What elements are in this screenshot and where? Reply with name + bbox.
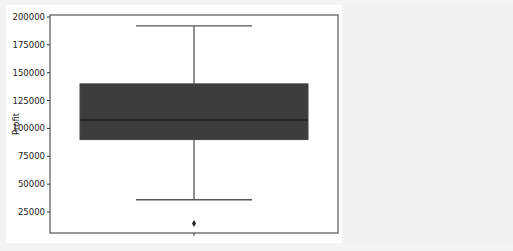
y-tick-label: 50000: [18, 179, 45, 189]
y-tick-label: 150000: [13, 68, 45, 78]
box-plot: 2500050000750001000001250001500001750002…: [0, 0, 513, 251]
y-tick-label: 125000: [13, 96, 45, 106]
outlier-point: [192, 220, 196, 227]
iqr-box: [80, 84, 308, 140]
box-series: [80, 26, 308, 227]
y-tick-label: 175000: [13, 40, 45, 50]
y-tick-label: 200000: [13, 12, 45, 22]
y-tick-label: 75000: [18, 151, 45, 161]
y-axis-label: Profit: [11, 112, 21, 135]
y-tick-label: 25000: [18, 207, 45, 217]
